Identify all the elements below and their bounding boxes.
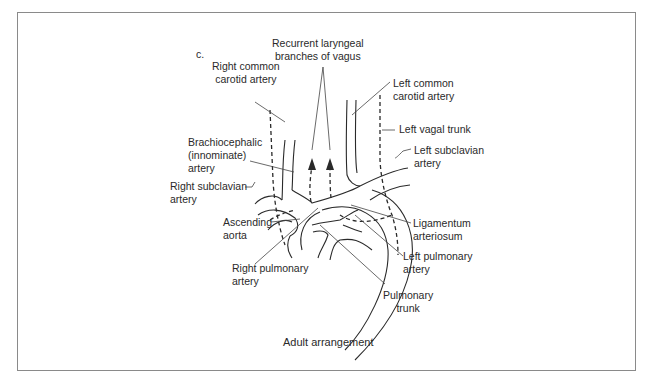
label-recurrent-laryngeal: Recurrent laryngeal branches of vagus [272, 37, 364, 63]
label-pulmonary-trunk: Pulmonary trunk [383, 289, 433, 315]
leader-line [395, 149, 411, 158]
label-left-subclavian: Left subclavian artery [414, 144, 484, 170]
label-left-vagal-trunk: Left vagal trunk [399, 123, 471, 136]
right-common-carotid-vessel-inner [292, 140, 295, 190]
label-left-pulmonary: Left pulmonary artery [403, 250, 472, 276]
label-right-subclavian: Right subclavian artery [170, 180, 247, 206]
left-subclavian-lower [370, 185, 410, 200]
leader-line [323, 67, 330, 150]
brachiocephalic-vessel [255, 196, 282, 204]
arrowhead-icon [308, 158, 316, 170]
arch-upper-edge [292, 186, 360, 203]
leader-line [355, 215, 403, 256]
panel-label: c. [196, 48, 204, 61]
ascending-aorta-right [288, 236, 292, 258]
label-right-common-carotid: Right common carotid artery [212, 60, 280, 86]
leader-line [352, 82, 390, 115]
label-left-common-carotid: Left common carotid artery [393, 77, 454, 103]
left-common-carotid-vessel [346, 100, 360, 186]
left-subclavian-vessel [360, 168, 408, 186]
leader-line [351, 205, 411, 223]
recurrent-nerve-left [310, 165, 312, 202]
right-pulmonary-stub [313, 231, 328, 258]
label-right-pulmonary: Right pulmonary artery [232, 262, 308, 288]
arrowhead-icon [326, 158, 334, 170]
leader-line [271, 219, 300, 222]
label-ascending-aorta: Ascending aorta [223, 216, 272, 242]
label-brachiocephalic: Brachiocephalic (innominate) artery [188, 136, 262, 175]
pulmonary-trunk-vessel [330, 239, 372, 260]
aortic-arch-outer [322, 207, 388, 350]
leader-line [312, 67, 323, 150]
left-pulmonary-vessel [343, 225, 362, 232]
label-ligamentum-arteriosum: Ligamentum arteriosum [413, 217, 471, 243]
leader-line [320, 225, 385, 284]
figure-caption: Adult arrangement [283, 336, 374, 349]
